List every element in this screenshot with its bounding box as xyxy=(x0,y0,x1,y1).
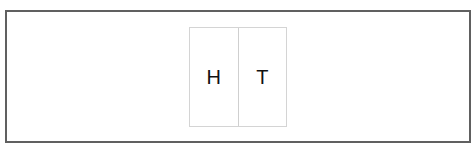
heads-label: H xyxy=(207,66,221,89)
tails-label: T xyxy=(256,66,268,89)
coin-toggle: H T xyxy=(189,27,287,127)
tails-option[interactable]: T xyxy=(238,28,287,126)
canvas-frame: H T xyxy=(5,10,471,143)
heads-option[interactable]: H xyxy=(190,28,238,126)
